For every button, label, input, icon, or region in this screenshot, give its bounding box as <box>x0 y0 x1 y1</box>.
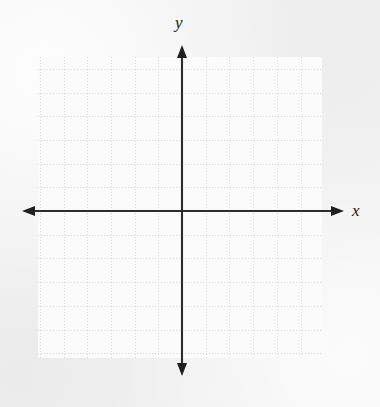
grid-vertical-line <box>158 57 159 358</box>
grid-vertical-line <box>301 57 302 358</box>
graph-grid-panel <box>38 57 322 358</box>
grid-horizontal-line <box>38 330 322 331</box>
grid-horizontal-line <box>38 140 322 141</box>
grid-horizontal-line <box>38 353 322 354</box>
y-axis-down-arrowhead <box>177 363 187 376</box>
x-axis-right-arrowhead <box>331 206 344 216</box>
grid-horizontal-line <box>38 116 322 117</box>
grid-horizontal-line <box>38 93 322 94</box>
grid-horizontal-line <box>38 164 322 165</box>
grid-vertical-line <box>229 57 230 358</box>
grid-horizontal-line <box>38 258 322 259</box>
grid-vertical-line <box>40 57 41 358</box>
x-axis-label: x <box>352 202 360 219</box>
grid-horizontal-line <box>38 235 322 236</box>
grid-vertical-line <box>277 57 278 358</box>
grid-horizontal-line <box>38 69 322 70</box>
grid-horizontal-line <box>38 187 322 188</box>
grid-horizontal-line <box>38 211 322 212</box>
grid-horizontal-line <box>38 282 322 283</box>
grid-horizontal-line <box>38 306 322 307</box>
grid-vertical-line <box>111 57 112 358</box>
grid-vertical-line <box>135 57 136 358</box>
y-axis-label: y <box>175 14 183 31</box>
grid-lines <box>38 57 322 358</box>
grid-vertical-line <box>182 57 183 358</box>
grid-vertical-line <box>253 57 254 358</box>
grid-vertical-line <box>87 57 88 358</box>
grid-vertical-line <box>64 57 65 358</box>
coordinate-plane-figure: y x <box>0 0 380 407</box>
grid-vertical-line <box>206 57 207 358</box>
x-axis-left-arrowhead <box>22 206 35 216</box>
